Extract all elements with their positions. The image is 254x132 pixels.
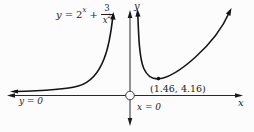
origin-open-circle (126, 91, 135, 100)
y-axis-arrow-down-icon (128, 118, 133, 126)
curve-left-branch (14, 17, 113, 92)
equation-y-var: y (56, 9, 62, 20)
horizontal-asymptote-label: y = 0 (19, 97, 43, 106)
min-point-label: (1.46, 4.16) (150, 84, 206, 94)
equation-exponent: x (82, 6, 86, 14)
y-axis-arrow-up-icon (128, 10, 133, 18)
vertical-asymptote-label: x = 0 (137, 103, 161, 112)
equation-denominator: x2 (101, 14, 114, 25)
x-axis-arrow-left-icon (7, 93, 15, 98)
curve-right-branch (138, 12, 230, 79)
equation-denominator-exp: 2 (108, 12, 112, 19)
curve-left-end-arrow-icon (10, 89, 18, 93)
equation-denominator-var: x (103, 15, 108, 25)
equation-fraction: 3 x2 (101, 4, 114, 24)
curve-right-end-arrow-icon (226, 8, 232, 16)
min-point-dot (157, 77, 161, 81)
function-graph-figure: y = 2x + 3 x2 y x y = 0 x = 0 (1.46, 4.1… (0, 0, 254, 132)
x-axis-label: x (238, 98, 244, 108)
equation-equals: = (65, 9, 73, 20)
graph-canvas (0, 0, 254, 132)
y-axis-label: y (134, 1, 140, 11)
equation-power-term: 2x (76, 9, 86, 20)
equation-plus: + (89, 9, 97, 20)
equation-label: y = 2x + 3 x2 (56, 4, 113, 24)
